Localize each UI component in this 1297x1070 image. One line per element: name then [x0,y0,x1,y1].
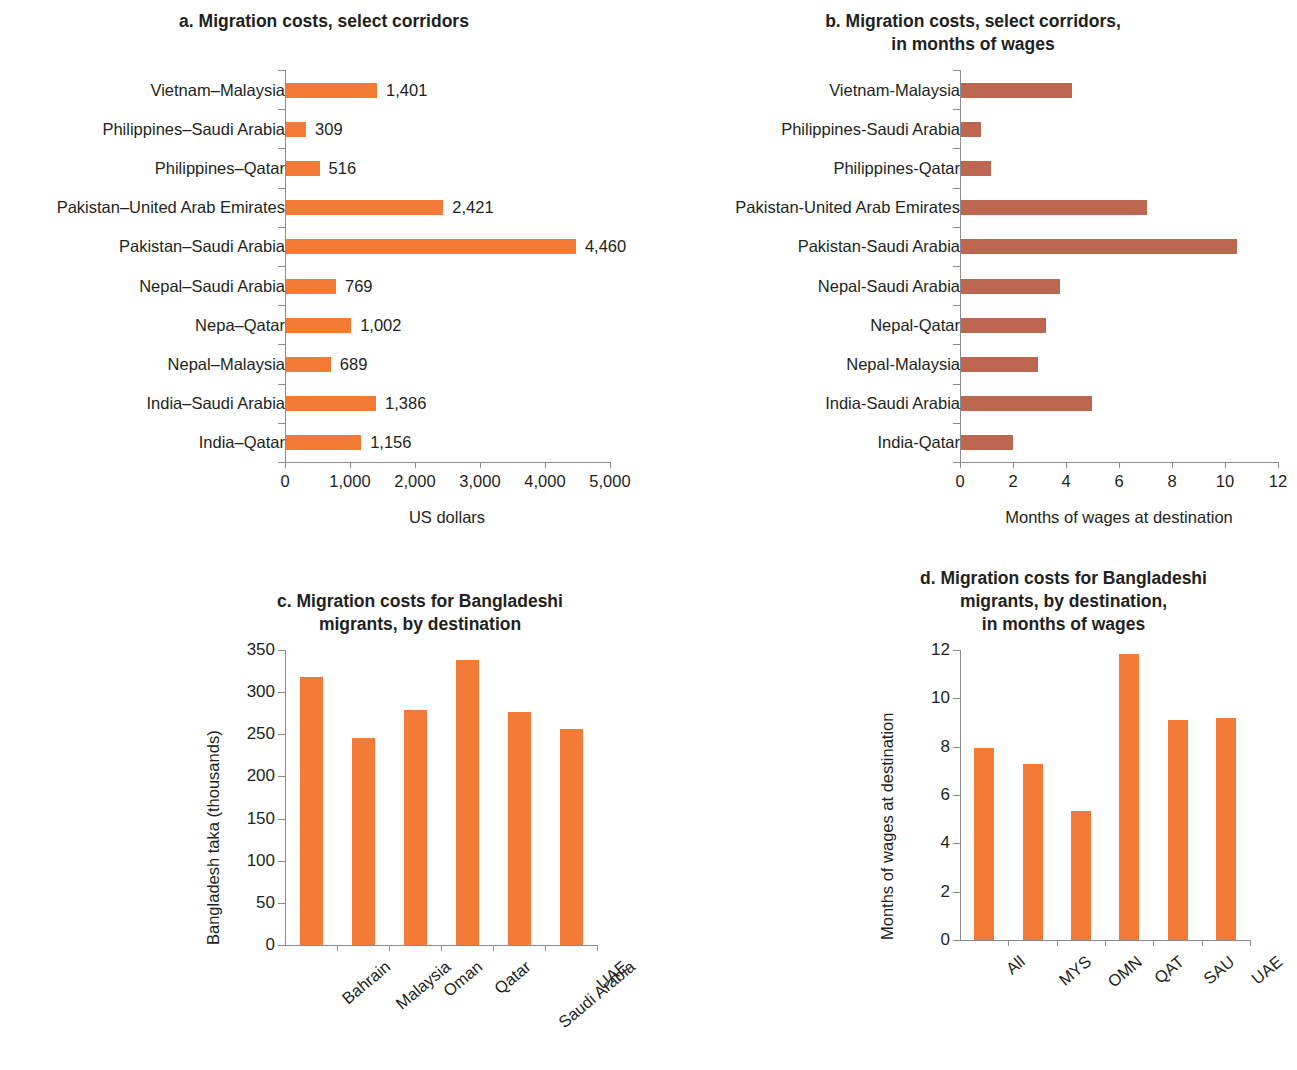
bar [961,435,1013,450]
y-tick-mark [278,423,285,424]
bar-row: Nepal–Saudi Arabia769 [0,275,648,297]
panel-c-bars [285,650,597,945]
bar-category-label: Pakistan-United Arab Emirates [649,196,969,218]
bar [456,660,479,945]
y-tick-label: 50 [223,893,275,913]
y-tick-mark [953,305,960,306]
x-tick-mark [545,945,546,951]
bar [961,200,1147,215]
panel-b-plot-area: Vietnam-MalaysiaPhilippines-Saudi Arabia… [649,70,1297,470]
x-tick-label: 2 [1008,472,1017,491]
bar-row: India–Qatar1,156 [0,431,648,453]
bar-category-label: Nepa–Qatar [0,314,294,336]
y-tick-mark [278,734,285,735]
bar [1216,718,1236,940]
x-tick-mark [1119,462,1120,468]
panel-d-bangladeshi-migration-costs-months: d. Migration costs for Bangladeshi migra… [830,555,1297,1070]
y-tick-mark [953,462,960,463]
y-tick-label: 0 [898,930,950,950]
bar-category-label: Philippines–Saudi Arabia [0,118,294,140]
y-tick-label: 100 [223,851,275,871]
panel-b-title-line-2: in months of wages [649,33,1297,56]
x-tick-mark [960,462,961,468]
y-tick-mark [278,148,285,149]
bar [286,122,306,137]
x-tick-mark [1105,940,1106,946]
x-tick-mark [415,462,416,468]
bar [1119,654,1139,940]
y-tick-label: 350 [223,640,275,660]
panel-d-plot-area: 024681012 AllMYSOMNQATSAUUAE [960,650,1250,940]
x-tick-label: 2,000 [394,472,435,491]
x-tick-mark [350,462,351,468]
x-tick-label: 4 [1061,472,1070,491]
x-tick-mark [1066,462,1067,468]
x-tick-mark [389,945,390,951]
x-tick-label: 0 [955,472,964,491]
bar-row: India–Saudi Arabia1,386 [0,392,648,414]
x-tick-label: SAU [1199,952,1237,988]
y-tick-mark [953,188,960,189]
x-tick-label: Bahrain [338,957,394,1008]
y-tick-mark [953,344,960,345]
x-tick-label: MYS [1055,952,1095,990]
y-tick-label: 150 [223,809,275,829]
panel-c-title-line-1: c. Migration costs for Bangladeshi [160,590,680,613]
bar-row: Vietnam–Malaysia1,401 [0,79,648,101]
bar [286,318,351,333]
bar-category-label: Nepal–Malaysia [0,353,294,375]
y-tick-mark [278,903,285,904]
panel-d-title-line-1: d. Migration costs for Bangladeshi [830,567,1297,590]
bar [286,161,320,176]
bar [286,279,336,294]
panel-a-x-axis-line [285,462,610,463]
x-tick-mark [1057,940,1058,946]
x-tick-label: QAT [1151,952,1188,988]
bar-category-label: India–Saudi Arabia [0,392,294,414]
y-tick-label: 12 [898,640,950,660]
x-tick-label: 4,000 [524,472,565,491]
x-tick-label: 3,000 [459,472,500,491]
bar [508,712,531,945]
bar-category-label: Vietnam–Malaysia [0,79,294,101]
bar-row: Pakistan–Saudi Arabia4,460 [0,235,648,257]
y-tick-label: 200 [223,766,275,786]
bar-row: Pakistan-Saudi Arabia [649,235,1297,257]
x-tick-mark [1153,940,1154,946]
panel-c-y-axis-title: Bangladesh taka (thousands) [204,730,223,945]
bar [961,122,981,137]
bar-category-label: Philippines-Qatar [649,157,969,179]
bar-row: Philippines–Qatar516 [0,157,648,179]
y-tick-mark [278,945,285,946]
y-tick-mark [278,692,285,693]
y-tick-mark [278,227,285,228]
bar-row: India-Saudi Arabia [649,392,1297,414]
y-tick-mark [953,266,960,267]
bar [961,239,1237,254]
bar-row: Philippines–Saudi Arabia309 [0,118,648,140]
panel-d-y-axis-title: Months of wages at destination [878,713,897,940]
bar [1071,811,1091,940]
y-tick-label: 300 [223,682,275,702]
bar-category-label: Pakistan–Saudi Arabia [0,235,294,257]
bar [286,83,377,98]
bar-value-label: 4,460 [585,235,626,257]
x-tick-label: 5,000 [589,472,630,491]
panel-c-title: c. Migration costs for Bangladeshi migra… [160,590,680,636]
bar-row: Pakistan–United Arab Emirates2,421 [0,196,648,218]
x-tick-label: All [1002,952,1028,978]
x-tick-mark [1202,940,1203,946]
y-tick-mark [953,892,960,893]
bar [404,710,427,945]
y-tick-mark [278,344,285,345]
panel-b-title-line-1: b. Migration costs, select corridors, [649,10,1297,33]
x-tick-label: 6 [1114,472,1123,491]
panel-d-title-line-3: in months of wages [830,613,1297,636]
y-tick-mark [278,305,285,306]
y-tick-mark [278,776,285,777]
x-tick-mark [1008,940,1009,946]
bar-category-label: Vietnam-Malaysia [649,79,969,101]
y-tick-label: 2 [898,882,950,902]
bar-row: Philippines-Saudi Arabia [649,118,1297,140]
panel-a-x-axis-title: US dollars [409,508,485,527]
